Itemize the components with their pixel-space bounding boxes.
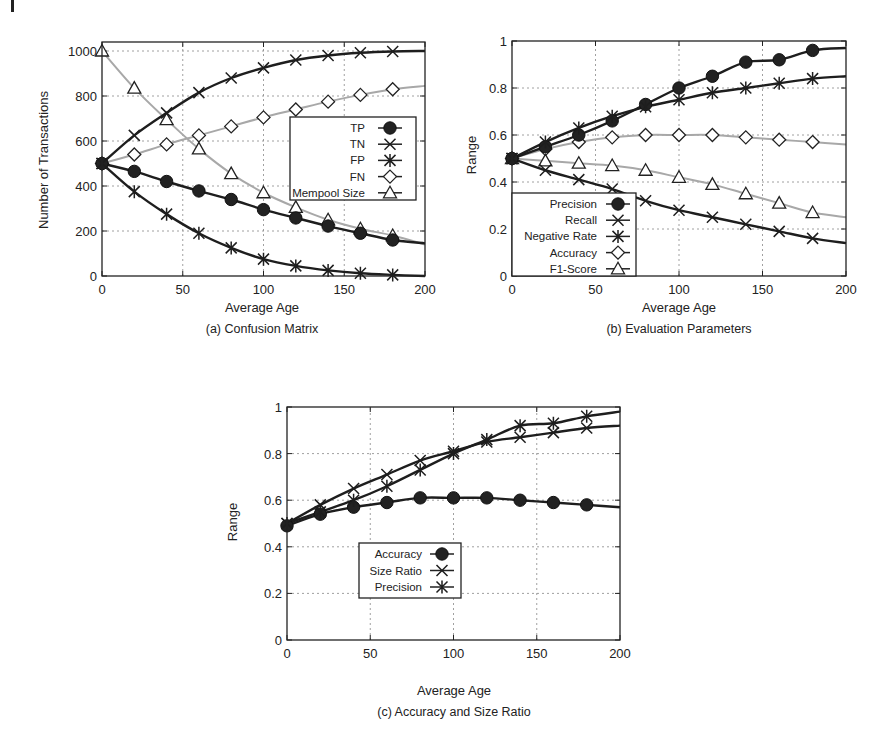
chart-a-y-axis-label: Number of Transactions bbox=[36, 91, 51, 230]
x-tick-label: 200 bbox=[835, 282, 857, 297]
y-tick-label: 0.8 bbox=[264, 447, 282, 462]
chart-a-legend: TPTNFPFNMempool Size bbox=[290, 117, 416, 200]
legend-label: FN bbox=[350, 171, 365, 183]
legend-label: Precision bbox=[375, 581, 422, 593]
x-tick-label: 200 bbox=[609, 646, 631, 661]
legend-label: Precision bbox=[550, 198, 597, 210]
y-tick-label: 0 bbox=[275, 633, 282, 648]
x-tick-label: 100 bbox=[253, 282, 275, 297]
chart-b-caption: (b) Evaluation Parameters bbox=[606, 322, 751, 336]
chart-c-caption: (c) Accuracy and Size Ratio bbox=[377, 705, 531, 719]
chart-b: 05010015020000.20.40.60.81PrecisionRecal… bbox=[464, 34, 857, 336]
x-tick-label: 0 bbox=[283, 646, 290, 661]
chart-c-grid bbox=[287, 407, 620, 640]
legend-label: Negative Rate bbox=[524, 230, 597, 242]
y-tick-label: 0.2 bbox=[264, 586, 282, 601]
y-tick-label: 1 bbox=[275, 400, 282, 415]
x-tick-label: 50 bbox=[176, 282, 190, 297]
y-tick-label: 0.6 bbox=[264, 493, 282, 508]
x-tick-label: 50 bbox=[588, 282, 602, 297]
legend-label: Mempool Size bbox=[292, 187, 365, 199]
chart-b-legend: PrecisionRecallNegative RateAccuracyF1-S… bbox=[512, 193, 636, 276]
figure-canvas: 05010015020002004006008001000TPTNFPFNMem… bbox=[0, 0, 886, 753]
y-tick-label: 1000 bbox=[68, 44, 97, 59]
legend-label: Recall bbox=[565, 214, 597, 226]
legend-label: Size Ratio bbox=[370, 565, 422, 577]
chart-a-x-axis-label: Average Age bbox=[225, 300, 299, 315]
chart-b-x-axis-label: Average Age bbox=[642, 300, 716, 315]
y-tick-label: 0.4 bbox=[489, 175, 507, 190]
chart-b-y-axis-label: Range bbox=[464, 136, 479, 174]
x-tick-label: 150 bbox=[752, 282, 774, 297]
chart-c-x-axis-label: Average Age bbox=[417, 683, 491, 698]
x-tick-label: 0 bbox=[508, 282, 515, 297]
y-tick-label: 1 bbox=[500, 34, 507, 49]
y-tick-label: 400 bbox=[75, 179, 97, 194]
x-tick-label: 100 bbox=[668, 282, 690, 297]
x-tick-label: 200 bbox=[414, 282, 436, 297]
y-tick-label: 0.2 bbox=[489, 222, 507, 237]
x-tick-label: 100 bbox=[443, 646, 465, 661]
x-tick-label: 0 bbox=[98, 282, 105, 297]
y-tick-label: 0.8 bbox=[489, 81, 507, 96]
x-tick-label: 150 bbox=[526, 646, 548, 661]
legend-label: FP bbox=[350, 154, 365, 166]
chart-a-caption: (a) Confusion Matrix bbox=[206, 322, 319, 336]
chart-c-ticks: 05010015020000.20.40.60.81 bbox=[264, 400, 631, 661]
chart-a: 05010015020002004006008001000TPTNFPFNMem… bbox=[36, 42, 436, 336]
legend-label: F1-Score bbox=[550, 263, 597, 275]
chart-c-legend: AccuracySize RatioPrecision bbox=[359, 543, 461, 598]
legend-label: Accuracy bbox=[375, 548, 423, 560]
y-tick-label: 800 bbox=[75, 89, 97, 104]
y-tick-label: 600 bbox=[75, 134, 97, 149]
legend-label: TP bbox=[350, 122, 365, 134]
series-markers-negative-rate bbox=[507, 72, 819, 165]
y-tick-label: 0 bbox=[500, 269, 507, 284]
y-tick-label: 0.6 bbox=[489, 128, 507, 143]
chart-c-series bbox=[281, 410, 620, 532]
x-tick-label: 50 bbox=[363, 646, 377, 661]
y-tick-label: 200 bbox=[75, 224, 97, 239]
legend-label: Accuracy bbox=[550, 247, 598, 259]
chart-c-y-axis-label: Range bbox=[225, 503, 240, 541]
legend-label: TN bbox=[350, 138, 365, 150]
x-tick-label: 150 bbox=[333, 282, 355, 297]
chart-c: 05010015020000.20.40.60.81AccuracySize R… bbox=[225, 400, 631, 719]
y-tick-label: 0.4 bbox=[264, 540, 282, 555]
y-tick-label: 0 bbox=[90, 269, 97, 284]
